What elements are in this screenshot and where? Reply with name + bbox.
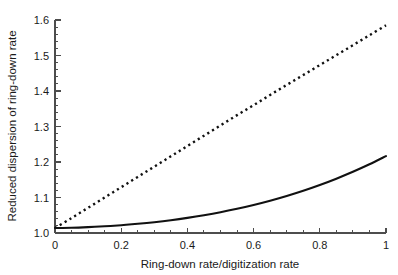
y-tick-label-1.6: 1.6 — [34, 14, 49, 26]
x-axis-title: Ring-down rate/digitization rate — [141, 258, 300, 270]
chart-figure: 1.01.11.21.31.41.51.6 00.20.40.60.81 Rin… — [0, 0, 398, 275]
y-tick-label-1.1: 1.1 — [34, 192, 49, 204]
x-tick-label-0.6: 0.6 — [246, 239, 261, 251]
y-tick-label-1.3: 1.3 — [34, 121, 49, 133]
x-tick-label-1: 1 — [383, 239, 389, 251]
x-tick-label-0.8: 0.8 — [312, 239, 327, 251]
y-tick-label-1.5: 1.5 — [34, 50, 49, 62]
y-axis-title: Reduced dispersion of ring-down rate — [6, 30, 18, 221]
y-tick-label-1.0: 1.0 — [34, 227, 49, 239]
x-tick-label-0: 0 — [52, 239, 58, 251]
x-tick-label-0.2: 0.2 — [114, 239, 129, 251]
y-tick-label-1.4: 1.4 — [34, 85, 49, 97]
x-tick-label-0.4: 0.4 — [180, 239, 195, 251]
y-tick-label-1.2: 1.2 — [34, 156, 49, 168]
plot-canvas: 1.01.11.21.31.41.51.6 00.20.40.60.81 Rin… — [0, 0, 398, 275]
